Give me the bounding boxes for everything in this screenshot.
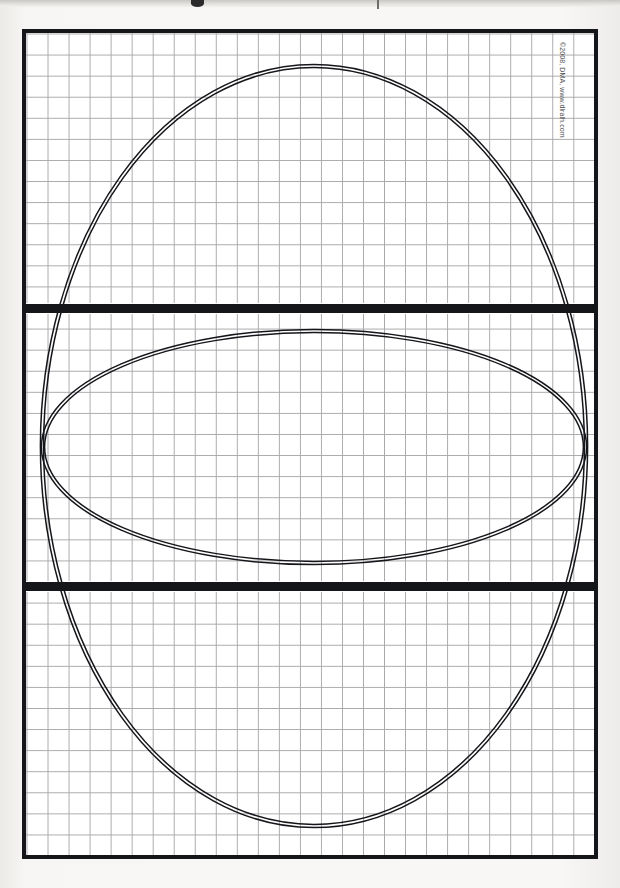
graph-paper-grid bbox=[26, 33, 594, 855]
divider-upper bbox=[26, 304, 594, 313]
copyright-credit: ©2008, DMA, www.dlralh.com bbox=[559, 42, 566, 138]
worksheet-border bbox=[22, 29, 598, 859]
divider-lower bbox=[26, 582, 594, 591]
scan-artifact-tick-icon bbox=[377, 0, 379, 9]
scanned-worksheet-page: ©2008, DMA, www.dlralh.com bbox=[0, 0, 620, 888]
scan-artifact-blob-icon bbox=[191, 0, 204, 7]
page-top-edge-strip bbox=[0, 0, 620, 7]
